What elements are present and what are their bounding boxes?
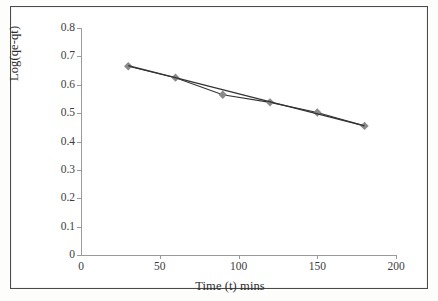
x-tick-label: 150 — [295, 261, 339, 273]
y-tick-mark — [77, 56, 81, 57]
y-axis-tick-labels: 00.10.20.30.40.50.60.70.8 — [29, 28, 75, 255]
x-tick-label: 100 — [217, 261, 261, 273]
x-tick-mark — [239, 255, 240, 259]
y-tick-mark — [77, 227, 81, 228]
y-tick-label: 0.2 — [35, 192, 75, 204]
x-tick-mark — [160, 255, 161, 259]
x-axis-tick-labels: 050100150200 — [59, 261, 438, 277]
y-axis-title: Log(qe-qt) — [7, 0, 22, 81]
y-tick-label: 0.7 — [35, 50, 75, 62]
trendline — [128, 66, 364, 126]
y-tick-label: 0.6 — [35, 79, 75, 91]
data-series-svg — [81, 28, 396, 255]
y-tick-mark — [77, 85, 81, 86]
y-tick-label: 0.4 — [35, 136, 75, 148]
y-tick-mark — [77, 113, 81, 114]
y-tick-label: 0.8 — [35, 22, 75, 34]
figure-frame-border: 00.10.20.30.40.50.60.70.8 Log(qe-qt) 050… — [10, 6, 428, 289]
y-tick-label: 0.5 — [35, 107, 75, 119]
y-tick-label: 0.1 — [35, 221, 75, 233]
y-tick-mark — [77, 170, 81, 171]
y-tick-mark — [77, 142, 81, 143]
y-tick-mark — [77, 198, 81, 199]
plot-area — [81, 28, 396, 255]
x-tick-label: 0 — [59, 261, 103, 273]
data-point-marker — [219, 90, 227, 98]
y-tick-label: 0.3 — [35, 164, 75, 176]
y-tick-mark — [77, 28, 81, 29]
y-tick-label: 0 — [35, 249, 75, 261]
figure-page: 00.10.20.30.40.50.60.70.8 Log(qe-qt) 050… — [0, 0, 438, 301]
y-tick-mark — [77, 255, 81, 256]
x-axis-title: Time (t) mins — [11, 279, 438, 294]
x-tick-mark — [396, 255, 397, 259]
x-tick-label: 200 — [374, 261, 418, 273]
x-tick-mark — [317, 255, 318, 259]
x-tick-label: 50 — [138, 261, 182, 273]
